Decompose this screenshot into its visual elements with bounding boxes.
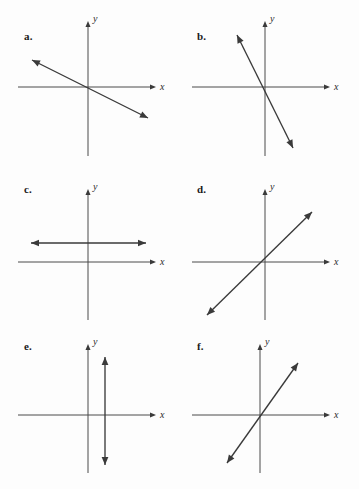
coordinate-plane-c: xy: [0, 170, 179, 333]
panel-b: b.xy: [180, 8, 359, 171]
y-axis-label-a: y: [92, 13, 98, 24]
y-axis-label-d: y: [269, 181, 275, 192]
y-axis-arrow-e: [85, 344, 90, 350]
x-axis-label-a: x: [159, 81, 165, 92]
coordinate-plane-d: xy: [180, 170, 359, 333]
graph-line-arrow-end-e: [102, 457, 109, 465]
x-axis-arrow-f: [324, 412, 330, 417]
y-axis-label-e: y: [92, 336, 98, 347]
x-axis-label-d: x: [333, 256, 339, 267]
panel-a: a.xy: [0, 8, 179, 171]
panel-e: e.xy: [0, 325, 179, 488]
y-axis-arrow-f: [257, 344, 262, 350]
x-axis-label-b: x: [333, 81, 339, 92]
panel-f: f.xy: [180, 325, 359, 488]
y-axis-arrow-d: [262, 189, 267, 195]
x-axis-label-e: x: [159, 409, 165, 420]
x-axis-arrow-a: [150, 84, 156, 89]
graph-line-arrow-end-c: [138, 240, 146, 247]
panel-c: c.xy: [0, 170, 179, 333]
x-axis-arrow-d: [324, 259, 330, 264]
graph-line-arrow-end-f: [291, 363, 298, 371]
panel-d: d.xy: [180, 170, 359, 333]
y-axis-label-b: y: [269, 13, 275, 24]
y-axis-arrow-b: [262, 21, 267, 27]
graph-line-f: [227, 363, 298, 463]
figure-page: a.xyb.xyc.xyd.xye.xyf.xy: [0, 0, 359, 489]
graph-line-arrow-start-e: [102, 357, 109, 365]
x-axis-arrow-e: [150, 412, 156, 417]
graph-line-a: [32, 60, 148, 118]
y-axis-arrow-a: [85, 21, 90, 27]
y-axis-label-c: y: [92, 181, 98, 192]
x-axis-arrow-c: [150, 259, 156, 264]
coordinate-plane-e: xy: [0, 325, 179, 488]
x-axis-arrow-b: [324, 84, 330, 89]
coordinate-plane-a: xy: [0, 8, 179, 171]
x-axis-label-f: x: [333, 409, 339, 420]
y-axis-arrow-c: [85, 189, 90, 195]
graph-line-arrow-start-f: [227, 455, 234, 463]
x-axis-label-c: x: [159, 256, 165, 267]
coordinate-plane-f: xy: [180, 325, 359, 488]
coordinate-plane-b: xy: [180, 8, 359, 171]
y-axis-label-f: y: [264, 336, 270, 347]
graph-line-arrow-start-c: [31, 240, 39, 247]
graph-line-d: [207, 212, 312, 315]
